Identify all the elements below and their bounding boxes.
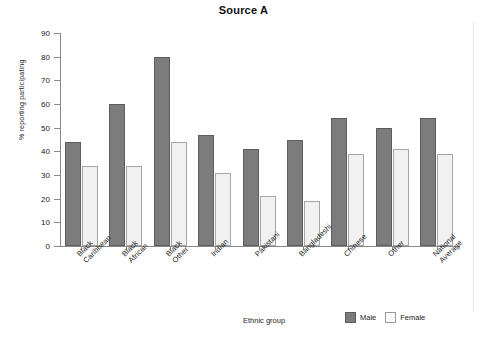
- bar-group: [65, 33, 98, 246]
- bar-group: [376, 33, 409, 246]
- bar-female: [393, 149, 409, 246]
- bar-group: [198, 33, 231, 246]
- bar-female: [126, 166, 142, 246]
- y-axis-tick: 50: [54, 128, 60, 129]
- bar-male: [420, 118, 436, 246]
- y-axis-tick-label: 30: [41, 171, 50, 180]
- bar-female: [215, 173, 231, 246]
- legend-swatch-icon: [345, 312, 356, 323]
- y-axis-tick-label: 60: [41, 100, 50, 109]
- y-axis-tick: 30: [54, 175, 60, 176]
- plot-area: 9080706050403020100: [60, 33, 460, 246]
- legend-item-male[interactable]: Male: [345, 312, 376, 323]
- y-axis-tick: 20: [54, 199, 60, 200]
- y-axis-title: % reporting participating: [18, 60, 25, 141]
- chart-figure: Source A % reporting participating 90807…: [0, 0, 487, 342]
- chart-title: Source A: [0, 4, 487, 16]
- x-axis-title: Ethnic group: [243, 316, 285, 325]
- y-axis-tick-label: 90: [41, 29, 50, 38]
- bar-male: [109, 104, 125, 246]
- chart-legend: MaleFemale: [345, 312, 425, 323]
- bar-group: [109, 33, 142, 246]
- y-axis-tick: 80: [54, 57, 60, 58]
- y-axis-tick-label: 10: [41, 218, 50, 227]
- bar-group: [331, 33, 364, 246]
- y-axis-tick: 40: [54, 151, 60, 152]
- bar-male: [154, 57, 170, 246]
- y-axis-tick: 90: [54, 33, 60, 34]
- bar-male: [243, 149, 259, 246]
- legend-label: Male: [360, 313, 376, 322]
- y-axis-tick: 70: [54, 80, 60, 81]
- bar-male: [376, 128, 392, 246]
- y-axis-tick: 0: [54, 246, 60, 247]
- bar-group: [420, 33, 453, 246]
- bar-male: [198, 135, 214, 246]
- y-axis-tick-label: 80: [41, 52, 50, 61]
- bar-group: [154, 33, 187, 246]
- y-axis-tick-label: 0: [46, 242, 50, 251]
- y-axis-tick-label: 40: [41, 147, 50, 156]
- figure-frame-right-edge: [473, 22, 474, 312]
- bar-male: [287, 140, 303, 247]
- legend-item-female[interactable]: Female: [385, 312, 425, 323]
- y-axis-tick: 10: [54, 222, 60, 223]
- bar-group: [243, 33, 276, 246]
- y-axis-tick: 60: [54, 104, 60, 105]
- legend-swatch-icon: [385, 312, 396, 323]
- y-axis-tick-label: 20: [41, 194, 50, 203]
- y-axis-line: [60, 33, 61, 246]
- bar-male: [331, 118, 347, 246]
- y-axis-tick-label: 50: [41, 123, 50, 132]
- bar-group: [287, 33, 320, 246]
- y-axis-tick-label: 70: [41, 76, 50, 85]
- legend-label: Female: [400, 313, 425, 322]
- bar-female: [171, 142, 187, 246]
- bar-male: [65, 142, 81, 246]
